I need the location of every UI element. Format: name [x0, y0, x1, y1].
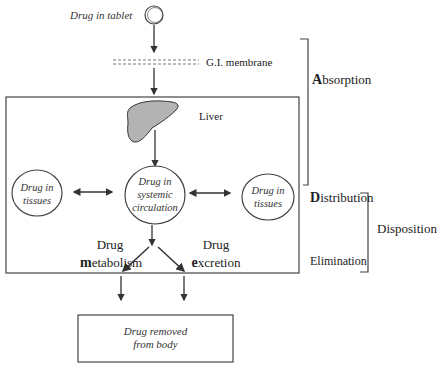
disposition-label: Disposition [377, 221, 437, 237]
metabolism-label: Drug metabolism [80, 236, 140, 272]
absorption-label: Absorption [312, 72, 371, 88]
circulation-line1: Drug in [120, 175, 190, 188]
liver-icon [128, 101, 179, 142]
excretion-line1: Drug [186, 236, 246, 254]
metabolism-rest: etabolism [92, 255, 143, 270]
removed-node: Drug removed from body [78, 325, 233, 351]
metabolism-line1: Drug [80, 236, 140, 254]
liver-label: Liver [199, 110, 223, 122]
excretion-rest: xcretion [198, 255, 241, 270]
absorption-initial: A [312, 72, 322, 87]
right-tissue-line1: Drug in [243, 184, 293, 197]
distribution-label: Distribution [310, 190, 374, 206]
tablet-icon [145, 6, 163, 24]
distribution-rest: istribution [320, 190, 373, 205]
left-tissue-line1: Drug in [12, 181, 62, 194]
circulation-node: Drug in systemic circulation [120, 175, 190, 214]
circulation-line2: systemic [120, 188, 190, 201]
metabolism-initial: m [80, 255, 92, 270]
right-tissue-node: Drug in tissues [243, 184, 293, 210]
removed-line1: Drug removed [78, 325, 233, 338]
circulation-line3: circulation [120, 201, 190, 214]
absorption-bracket [300, 39, 308, 185]
tablet-label: Drug in tablet [70, 9, 132, 21]
gi-membrane-icon [113, 60, 199, 64]
distribution-initial: D [310, 190, 320, 205]
excretion-label: Drug excretion [186, 236, 246, 272]
elimination-label: Elimination [310, 254, 367, 269]
removed-line2: from body [78, 338, 233, 351]
right-tissue-line2: tissues [243, 197, 293, 210]
left-tissue-node: Drug in tissues [12, 181, 62, 207]
absorption-rest: bsorption [322, 72, 371, 87]
membrane-label: G.I. membrane [206, 56, 272, 68]
arrow-to-excretion [158, 247, 184, 271]
left-tissue-line2: tissues [12, 194, 62, 207]
